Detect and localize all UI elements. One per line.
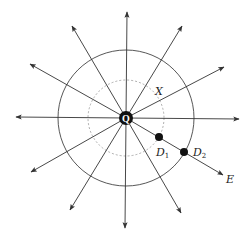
field-line-up: [126, 12, 127, 118]
test-points: D1D2: [155, 133, 206, 160]
field-line-left: [16, 117, 126, 118]
label-e: E: [225, 173, 234, 186]
field-line-down: [125, 118, 126, 228]
field-line-upper-right-steep: [126, 26, 182, 118]
label-x: X: [154, 85, 164, 98]
field-line-lower-right-shallow: [126, 118, 223, 175]
field-line-upper-left-steep: [72, 26, 126, 118]
field-line-right: [126, 118, 239, 119]
field-line-lower-right-steep: [126, 118, 181, 213]
charge-q: Q: [119, 111, 133, 125]
point-d1-dot: [155, 133, 163, 141]
field-line-upper-left-shallow: [30, 64, 126, 118]
point-d2-dot: [180, 148, 188, 156]
point-d2-label: D2: [192, 146, 206, 160]
field-line-lower-left-shallow: [31, 118, 126, 172]
field-line-lower-left-steep: [70, 118, 126, 210]
electric-field-diagram: Q D1D2 X E: [0, 0, 249, 237]
field-line-upper-right-shallow: [126, 67, 224, 118]
point-d1-label: D1: [155, 146, 169, 160]
charge-q-label: Q: [122, 113, 130, 124]
